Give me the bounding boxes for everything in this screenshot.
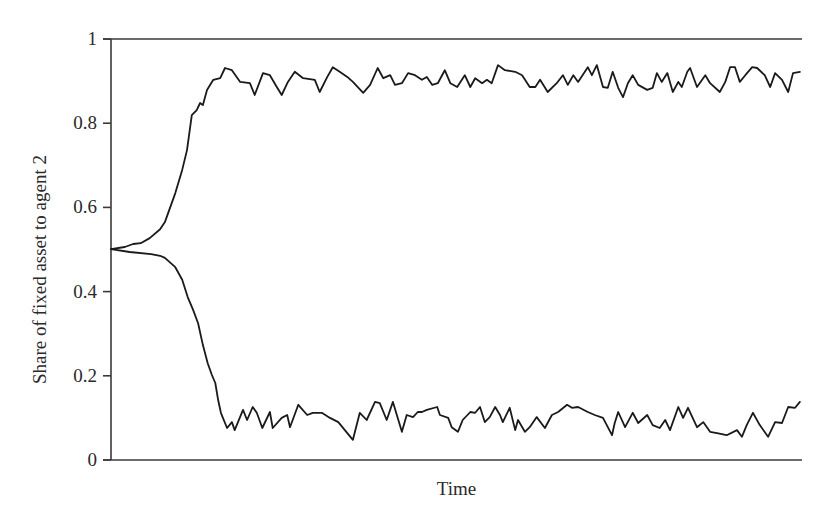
x-axis-title: Time bbox=[437, 478, 476, 499]
y-tick-label: 0.6 bbox=[73, 196, 97, 217]
y-tick-label: 0.8 bbox=[73, 112, 97, 133]
y-tick-label: 0 bbox=[88, 449, 98, 470]
y-tick-label: 0.2 bbox=[73, 365, 97, 386]
y-tick-label: 0.4 bbox=[73, 281, 97, 302]
series-group bbox=[111, 65, 800, 440]
y-axis-title: Share of fixed asset to agent 2 bbox=[29, 155, 50, 384]
upper-path-line bbox=[111, 65, 800, 249]
lower-path-line bbox=[111, 249, 800, 440]
y-axis-ticks: 00.20.40.60.81 bbox=[73, 28, 111, 470]
plot-frame bbox=[103, 39, 802, 460]
y-tick-label: 1 bbox=[88, 28, 98, 49]
chart: 00.20.40.60.81 Time Share of fixed asset… bbox=[0, 0, 833, 524]
